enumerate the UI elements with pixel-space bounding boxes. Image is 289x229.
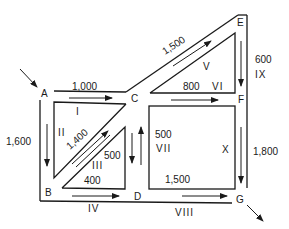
flow-network-diagram: A C E F B D G 1,000 1,600 1,400 500 400 …: [0, 0, 289, 229]
value-d-c-inner: 500: [104, 150, 121, 161]
region-VI-label: VI: [212, 81, 223, 92]
value-a-c: 1,000: [72, 81, 97, 92]
region-VII-label: VII: [156, 143, 171, 154]
value-d-g: 1,500: [165, 174, 190, 185]
node-labels: A C E F B D G: [41, 17, 244, 205]
node-f-label: F: [238, 94, 244, 105]
node-c-label: C: [131, 93, 138, 104]
region-X-label: X: [222, 144, 230, 155]
region-V-label: V: [203, 61, 211, 72]
value-e-f: 600: [255, 54, 272, 65]
node-e-label: E: [237, 17, 244, 28]
value-c-d: 500: [155, 129, 172, 140]
region-III-label: III: [92, 160, 103, 171]
region-IX-label: IX: [255, 69, 266, 80]
value-a-b: 1,600: [6, 136, 31, 147]
region-IV-label: IV: [88, 203, 99, 214]
value-b-d-inner: 400: [84, 175, 101, 186]
triangle-region-I: [54, 102, 126, 178]
node-g-label: G: [236, 194, 244, 205]
value-c-f: 800: [183, 81, 200, 92]
region-VIII-label: VIII: [175, 207, 194, 218]
value-f-g: 1,800: [253, 146, 278, 157]
outflow-arrow-icon: [247, 205, 263, 221]
node-b-label: B: [45, 187, 52, 198]
outer-boundary: [40, 15, 247, 203]
node-d-label: D: [134, 191, 141, 202]
value-c-b: 1,400: [64, 126, 90, 151]
node-a-label: A: [41, 88, 48, 99]
inflow-arrow-icon: [20, 69, 37, 87]
flow-arrows: [20, 41, 263, 221]
region-II-label: II: [58, 127, 66, 138]
region-I-label: I: [76, 106, 80, 117]
